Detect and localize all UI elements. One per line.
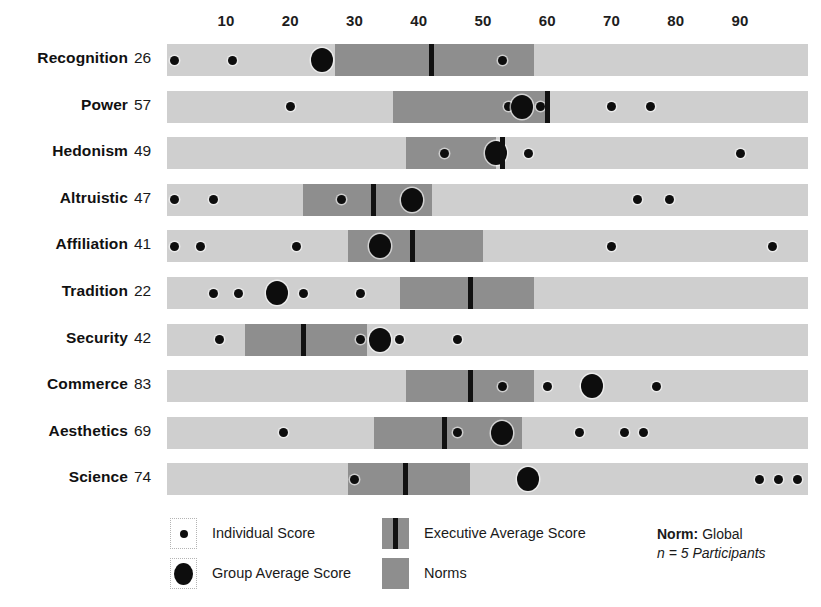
individual-score-dot xyxy=(498,382,507,391)
executive-average-line xyxy=(403,463,408,495)
group-average-dot xyxy=(266,281,288,305)
row-track xyxy=(167,417,808,449)
individual-score-dot xyxy=(768,242,777,251)
small-dot-icon xyxy=(170,518,197,549)
executive-average-line xyxy=(468,370,473,402)
chart-row: Altruistic47 xyxy=(0,178,821,224)
axis-tick-label: 20 xyxy=(282,12,299,29)
norms-band xyxy=(348,463,470,495)
executive-average-line xyxy=(410,230,415,262)
chart-row: Security42 xyxy=(0,318,821,364)
row-score: 42 xyxy=(134,329,160,347)
row-score: 41 xyxy=(134,235,160,253)
axis-tick-label: 90 xyxy=(732,12,749,29)
individual-score-dot xyxy=(575,428,584,437)
row-label: Science xyxy=(0,468,128,486)
chart-row: Commerce83 xyxy=(0,364,821,410)
row-label: Security xyxy=(0,329,128,347)
individual-score-dot xyxy=(524,149,533,158)
row-score: 47 xyxy=(134,189,160,207)
chart-row: Power57 xyxy=(0,85,821,131)
group-average-dot xyxy=(491,421,513,445)
row-score: 83 xyxy=(134,375,160,393)
individual-score-dot xyxy=(652,382,661,391)
individual-score-dot xyxy=(498,56,507,65)
large-dot-icon xyxy=(170,558,197,589)
individual-score-dot xyxy=(215,335,224,344)
axis-tick-label: 40 xyxy=(410,12,427,29)
individual-score-dot xyxy=(279,428,288,437)
individual-score-dot xyxy=(440,149,449,158)
group-average-dot xyxy=(517,467,539,491)
row-score: 26 xyxy=(134,49,160,67)
row-label: Affiliation xyxy=(0,235,128,253)
chart-row: Affiliation41 xyxy=(0,224,821,270)
executive-average-line xyxy=(500,137,505,169)
row-score: 74 xyxy=(134,468,160,486)
row-score: 57 xyxy=(134,96,160,114)
individual-score-dot xyxy=(736,149,745,158)
vertical-line-icon xyxy=(382,518,409,549)
axis-tick-label: 70 xyxy=(603,12,620,29)
row-score: 22 xyxy=(134,282,160,300)
row-label: Altruistic xyxy=(0,189,128,207)
axis-tick-label: 10 xyxy=(218,12,235,29)
individual-score-dot xyxy=(196,242,205,251)
executive-average-line xyxy=(429,44,434,76)
executive-average-line xyxy=(301,324,306,356)
individual-score-dot xyxy=(607,102,616,111)
row-label: Tradition xyxy=(0,282,128,300)
value-profile-chart: 102030405060708090 Recognition26Power57H… xyxy=(0,0,821,607)
axis-tick-label: 80 xyxy=(667,12,684,29)
row-label: Power xyxy=(0,96,128,114)
individual-score-dot xyxy=(170,195,179,204)
individual-score-dot xyxy=(774,475,783,484)
row-track xyxy=(167,463,808,495)
norm-note: Norm: Global n = 5 Participants xyxy=(657,525,807,563)
individual-score-dot xyxy=(299,289,308,298)
individual-score-dot xyxy=(633,195,642,204)
chart-row: Hedonism49 xyxy=(0,131,821,177)
norms-band xyxy=(406,137,496,169)
norm-note-participants: n = 5 Participants xyxy=(657,544,807,563)
axis-tick-label: 50 xyxy=(475,12,492,29)
row-track xyxy=(167,44,808,76)
individual-score-dot xyxy=(453,335,462,344)
row-track xyxy=(167,230,808,262)
large-dot-marker xyxy=(174,563,193,585)
row-score: 49 xyxy=(134,142,160,160)
individual-score-dot xyxy=(543,382,552,391)
individual-score-dot xyxy=(209,289,218,298)
individual-score-dot xyxy=(356,289,365,298)
individual-score-dot xyxy=(395,335,404,344)
legend-label: Individual Score xyxy=(212,525,315,541)
individual-score-dot xyxy=(286,102,295,111)
norms-band-icon xyxy=(382,558,409,589)
chart-row: Recognition26 xyxy=(0,38,821,84)
group-average-dot xyxy=(511,95,533,119)
individual-score-dot xyxy=(292,242,301,251)
legend-label: Group Average Score xyxy=(212,565,351,581)
individual-score-dot xyxy=(170,56,179,65)
executive-average-line xyxy=(371,184,376,216)
row-label: Aesthetics xyxy=(0,422,128,440)
individual-score-dot xyxy=(620,428,629,437)
row-track xyxy=(167,324,808,356)
legend-label: Norms xyxy=(424,565,467,581)
group-average-dot xyxy=(311,48,333,72)
individual-score-dot xyxy=(755,475,764,484)
norm-note-value: Global xyxy=(702,526,742,542)
row-label: Recognition xyxy=(0,49,128,67)
axis-tick-label: 60 xyxy=(539,12,556,29)
legend-label: Executive Average Score xyxy=(424,525,586,541)
executive-average-line xyxy=(442,417,447,449)
chart-row: Aesthetics69 xyxy=(0,411,821,457)
individual-score-dot xyxy=(170,242,179,251)
individual-score-dot xyxy=(665,195,674,204)
row-label: Hedonism xyxy=(0,142,128,160)
row-track xyxy=(167,137,808,169)
individual-score-dot xyxy=(646,102,655,111)
norm-note-line1: Norm: Global xyxy=(657,525,807,544)
axis-tick-label: 30 xyxy=(346,12,363,29)
executive-line-marker xyxy=(393,518,398,549)
